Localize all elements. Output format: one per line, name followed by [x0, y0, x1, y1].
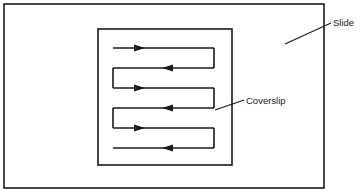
coverslip-rectangle: [98, 29, 232, 165]
coverslip-label: Coverslip: [246, 95, 286, 106]
flow-arrow-left-2: [162, 105, 173, 112]
coverslip-leader-line: [215, 100, 244, 110]
serpentine-flow-path: [113, 48, 214, 148]
flow-arrow-left-3: [162, 145, 173, 152]
flow-arrow-right-3: [134, 125, 145, 132]
flow-arrowheads: [134, 45, 173, 152]
flow-arrow-right-1: [134, 45, 145, 52]
diagram-svg: Slide Coverslip: [0, 0, 364, 196]
diagram-canvas: Slide Coverslip: [0, 0, 364, 196]
flow-arrow-right-2: [134, 85, 145, 92]
flow-arrow-left-1: [162, 65, 173, 72]
slide-label: Slide: [333, 17, 354, 28]
